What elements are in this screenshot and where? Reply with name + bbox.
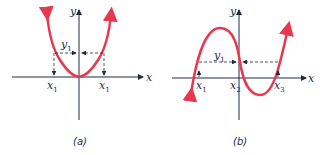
- panel-a-parabola: y x y1 x1 x1 (a): [0, 0, 160, 155]
- caption-b: (b): [233, 136, 247, 147]
- panel-b-cubic: y x y1 x1 x2 x3 (b): [160, 0, 323, 155]
- y-axis-label: y: [230, 6, 236, 17]
- y1-label: y1: [214, 50, 225, 64]
- x-axis-label: x: [308, 73, 314, 84]
- x3-label: x3: [274, 80, 285, 94]
- parabola-graph: [0, 0, 160, 155]
- y-axis-label: y: [70, 6, 76, 17]
- x2-label: x2: [230, 80, 241, 94]
- x1-right-label: x1: [99, 80, 110, 94]
- cubic-graph: [160, 0, 323, 155]
- y1-label: y1: [61, 39, 72, 53]
- x1-label: x1: [196, 80, 207, 94]
- x-axis-label: x: [146, 72, 152, 83]
- caption-a: (a): [73, 136, 87, 147]
- x1-left-label: x1: [47, 80, 58, 94]
